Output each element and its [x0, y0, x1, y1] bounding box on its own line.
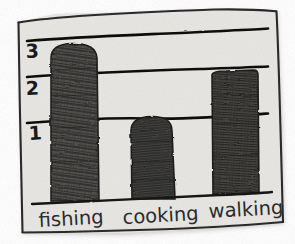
y-tick-label-1: 1 [28, 121, 42, 144]
bar-walking [212, 70, 259, 194]
bar-fishing [51, 43, 99, 201]
hand-drawn-bar-chart: 3 2 1 fishing cooking walking [0, 0, 295, 244]
chart-canvas: 3 2 1 fishing cooking walking [0, 0, 295, 244]
y-tick-label-2: 2 [25, 77, 39, 99]
bar-cooking [131, 116, 175, 199]
x-label-cooking: cooking [122, 202, 199, 229]
x-label-walking: walking [208, 196, 284, 223]
x-label-fishing: fishing [38, 205, 104, 232]
y-tick-label-3: 3 [25, 39, 39, 62]
